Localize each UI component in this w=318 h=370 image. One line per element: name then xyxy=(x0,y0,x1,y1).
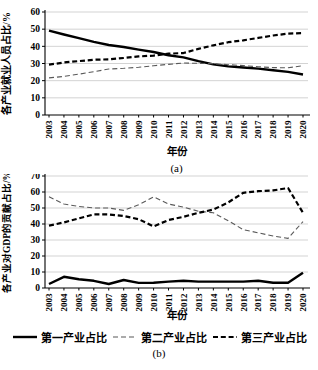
x-tick-label: 2005 xyxy=(74,120,84,139)
legend-label: 第二产业占比 xyxy=(141,329,207,345)
x-tick-label: 2008 xyxy=(119,120,129,138)
subplot-label-b: (b) xyxy=(0,347,318,359)
x-tick-label: 2004 xyxy=(59,293,69,312)
x-tick-label: 2011 xyxy=(164,293,174,311)
y-tick-label: 0 xyxy=(35,283,40,293)
gridlines xyxy=(45,12,308,98)
y-axis-title: 各产业就业人员占比/% xyxy=(0,12,12,116)
legend-line-sample xyxy=(12,332,38,342)
x-tick-label: 2011 xyxy=(164,120,174,138)
axes xyxy=(45,10,310,115)
x-tick-label: 2020 xyxy=(298,120,308,139)
x-tick-label: 2013 xyxy=(194,120,204,139)
x-axis-title: 年份 xyxy=(167,145,188,157)
legend-item-2: 第二产业占比 xyxy=(112,329,207,345)
y-tick-label: 50 xyxy=(31,24,41,34)
x-tick-label: 2006 xyxy=(89,120,99,139)
axes xyxy=(45,174,310,288)
series-line-2 xyxy=(49,197,303,239)
x-tick-label: 2012 xyxy=(179,120,189,139)
series-lines xyxy=(49,188,303,284)
y-tick-label: 70 xyxy=(31,174,41,181)
y-tick-labels: 010203040506070 xyxy=(31,174,46,293)
x-tick-label: 2003 xyxy=(44,120,54,139)
x-tick-label: 2007 xyxy=(104,120,114,139)
y-tick-label: 40 xyxy=(31,42,41,52)
series-line-3 xyxy=(49,188,303,226)
legend: 第一产业占比第二产业占比第三产业占比 xyxy=(0,329,318,345)
y-tick-label: 30 xyxy=(31,235,41,245)
x-tick-label: 2017 xyxy=(253,293,263,312)
y-tick-labels: 0102030405060 xyxy=(31,7,46,120)
x-tick-label: 2015 xyxy=(224,293,234,312)
legend-line-sample xyxy=(212,332,238,342)
legend-item-3: 第三产业占比 xyxy=(212,329,307,345)
x-tick-label: 2019 xyxy=(283,293,293,312)
x-tick-label: 2016 xyxy=(239,120,249,139)
x-tick-label: 2015 xyxy=(224,120,234,139)
x-tick-label: 2014 xyxy=(209,293,219,312)
legend-item-1: 第一产业占比 xyxy=(12,329,107,345)
y-tick-label: 20 xyxy=(31,76,41,86)
x-tick-labels: 2003200420052006200720082009201020112012… xyxy=(44,115,308,139)
subplot-label-a: (a) xyxy=(170,162,183,174)
figure: 0102030405060200320042005200620072008200… xyxy=(0,0,318,370)
x-tick-label: 2018 xyxy=(268,293,278,312)
x-tick-label: 2009 xyxy=(134,293,144,312)
x-tick-label: 2019 xyxy=(283,120,293,139)
y-tick-label: 30 xyxy=(31,59,41,69)
y-tick-label: 0 xyxy=(35,110,40,120)
x-tick-label: 2007 xyxy=(104,293,114,312)
x-tick-labels: 2003200420052006200720082009201020112012… xyxy=(44,288,308,312)
legend-line-sample xyxy=(112,332,138,342)
legend-label: 第一产业占比 xyxy=(41,329,107,345)
y-tick-label: 10 xyxy=(31,267,41,277)
x-tick-label: 2010 xyxy=(149,120,159,139)
x-tick-label: 2020 xyxy=(298,293,308,312)
x-tick-label: 2004 xyxy=(59,120,69,139)
y-tick-label: 50 xyxy=(31,203,41,213)
x-tick-label: 2012 xyxy=(179,293,189,312)
chart-b-canvas: 0102030405060702003200420052006200720082… xyxy=(0,174,318,326)
x-tick-label: 2017 xyxy=(253,120,263,139)
y-tick-label: 10 xyxy=(31,93,41,103)
x-tick-label: 2014 xyxy=(209,120,219,139)
series-line-1 xyxy=(49,273,303,284)
x-tick-label: 2005 xyxy=(74,293,84,312)
chart-a-canvas: 0102030405060200320042005200620072008200… xyxy=(0,0,318,174)
series-lines xyxy=(49,31,303,78)
y-axis-title: 各产业对GDP的贡献占比/% xyxy=(1,174,12,294)
x-tick-label: 2009 xyxy=(134,120,144,139)
y-tick-label: 60 xyxy=(31,187,41,197)
y-tick-label: 20 xyxy=(31,251,41,261)
series-line-3 xyxy=(49,33,303,65)
x-tick-label: 2008 xyxy=(119,293,129,312)
x-tick-label: 2018 xyxy=(268,120,278,139)
x-tick-label: 2013 xyxy=(194,293,204,312)
y-tick-label: 40 xyxy=(31,219,41,229)
x-tick-label: 2016 xyxy=(239,293,249,312)
x-tick-label: 2010 xyxy=(149,293,159,312)
y-tick-label: 60 xyxy=(31,7,41,17)
x-tick-label: 2006 xyxy=(89,293,99,312)
x-axis-title: 年份 xyxy=(167,309,188,321)
legend-label: 第三产业占比 xyxy=(241,329,307,345)
x-tick-label: 2003 xyxy=(44,293,54,312)
